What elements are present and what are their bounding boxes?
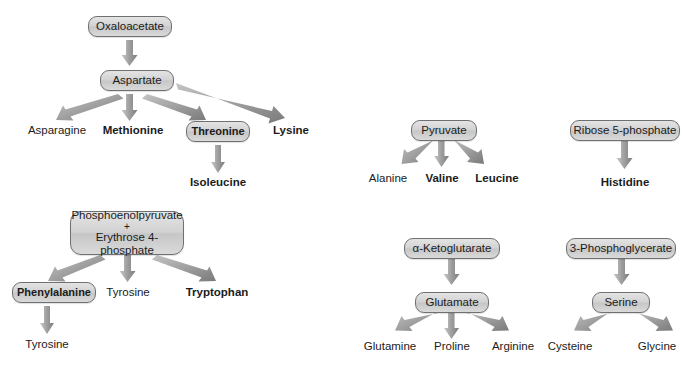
label-methionine: Methionine [103, 124, 164, 137]
node-alpha-ketoglutarate[interactable]: α-Ketoglutarate [404, 238, 500, 259]
node-aspartate[interactable]: Aspartate [100, 70, 174, 91]
arrow-pep-to-tryptophan [152, 255, 216, 282]
arrow-phosphoglycerate-to-serine [614, 259, 630, 285]
label-tyrosine-from-pep: Tyrosine [106, 286, 149, 299]
arrow-aspartate-to-methionine [122, 94, 138, 121]
arrow-phenylalanine-to-tyrosine [40, 306, 54, 334]
arrow-ribose5p-to-histidine [617, 141, 633, 169]
node-oxaloacetate[interactable]: Oxaloacetate [88, 16, 172, 37]
arrow-pep-to-phenylalanine [48, 255, 106, 282]
node-threonine[interactable]: Threonine [186, 121, 250, 142]
label-cysteine: Cysteine [548, 340, 593, 353]
label-arginine: Arginine [492, 340, 534, 353]
node-pep-line2: Erythrose 4-phosphate [77, 231, 177, 257]
label-isoleucine: Isoleucine [190, 176, 246, 189]
node-phenylalanine[interactable]: Phenylalanine [12, 282, 96, 303]
arrow-aspartate-to-threonine [142, 94, 206, 121]
node-serine[interactable]: Serine [592, 292, 650, 313]
label-glycine: Glycine [638, 340, 676, 353]
arrow-layer [0, 0, 699, 372]
arrow-threonine-to-isoleucine [211, 145, 225, 173]
node-pep-erythrose4phosphate[interactable]: Phosphoenolpyruvate + Erythrose 4-phosph… [70, 211, 184, 255]
arrow-aspartate-to-lysine [176, 83, 285, 124]
arrow-pyruvate-to-valine [434, 141, 449, 167]
label-lysine: Lysine [273, 124, 309, 137]
arrow-oxaloacetate-to-aspartate [122, 40, 138, 66]
node-pep-plus: + [124, 222, 130, 231]
label-glutamine: Glutamine [364, 340, 416, 353]
label-histidine: Histidine [601, 176, 650, 189]
label-proline: Proline [434, 340, 470, 353]
label-tyrosine-from-phenylalanine: Tyrosine [25, 338, 68, 351]
label-asparagine: Asparagine [28, 124, 86, 137]
arrow-aspartate-to-asparagine [56, 94, 124, 121]
biosynthesis-diagram: Oxaloacetate Aspartate Asparagine Methio… [0, 0, 699, 372]
node-ribose-5-phosphate[interactable]: Ribose 5-phosphate [570, 120, 680, 141]
arrow-pep-to-tyrosine [120, 255, 136, 282]
node-3-phosphoglycerate[interactable]: 3-Phosphoglycerate [566, 238, 676, 259]
arrow-ketoglutarate-to-glutamate [444, 259, 460, 285]
node-glutamate[interactable]: Glutamate [415, 292, 489, 313]
label-tryptophan: Tryptophan [186, 286, 249, 299]
label-leucine: Leucine [475, 172, 518, 185]
arrow-glutamate-to-proline [444, 313, 459, 339]
label-valine: Valine [425, 172, 458, 185]
node-pyruvate[interactable]: Pyruvate [411, 120, 477, 141]
label-alanine: Alanine [369, 172, 407, 185]
